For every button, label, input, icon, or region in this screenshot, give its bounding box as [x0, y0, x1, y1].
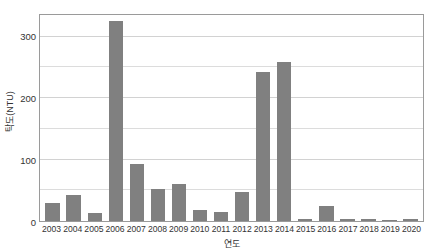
y-tick-label: 300	[20, 30, 36, 41]
bar-slot	[295, 15, 316, 221]
bar[interactable]	[319, 206, 333, 221]
bar-slot	[358, 15, 379, 221]
x-tick-label: 2008	[147, 224, 168, 237]
x-axis-tick-labels: 2003200420052006200720082009201020112012…	[39, 224, 424, 237]
bar[interactable]	[256, 72, 270, 221]
x-tick-label: 2012	[232, 224, 253, 237]
bar[interactable]	[277, 62, 291, 221]
x-tick-label: 2016	[316, 224, 337, 237]
bar-slot	[253, 15, 274, 221]
x-tick-label: 2019	[380, 224, 401, 237]
bar[interactable]	[130, 164, 144, 221]
x-tick-label: 2011	[210, 224, 231, 237]
y-tick-label: 0	[31, 217, 36, 228]
bar[interactable]	[340, 219, 354, 221]
bar-slot	[400, 15, 421, 221]
y-tick-label: 100	[20, 154, 36, 165]
x-tick-label: 2006	[105, 224, 126, 237]
x-tick-label: 2015	[295, 224, 316, 237]
x-tick-label: 2004	[62, 224, 83, 237]
bar-slot	[105, 15, 126, 221]
x-tick-label: 2013	[253, 224, 274, 237]
bar[interactable]	[193, 210, 207, 221]
bar-slot	[189, 15, 210, 221]
bar[interactable]	[45, 203, 59, 221]
bar-slot	[274, 15, 295, 221]
x-tick-label: 2014	[274, 224, 295, 237]
x-tick-label: 2017	[337, 224, 358, 237]
bar[interactable]	[403, 219, 417, 221]
bar[interactable]	[66, 195, 80, 221]
bar-slot	[337, 15, 358, 221]
bar-slot	[168, 15, 189, 221]
y-axis-tick-labels: 0100200300	[16, 14, 38, 222]
x-tick-label: 2020	[401, 224, 422, 237]
bar-chart-figure: 탁도(NTU) 0100200300 200320042005200620072…	[0, 0, 429, 250]
bar-slot	[316, 15, 337, 221]
bar-slot	[211, 15, 232, 221]
x-axis-title: 연도	[39, 237, 424, 250]
bar[interactable]	[109, 21, 123, 221]
x-tick-label: 2003	[41, 224, 62, 237]
bar[interactable]	[172, 184, 186, 221]
bar-slot	[379, 15, 400, 221]
x-tick-label: 2005	[83, 224, 104, 237]
x-tick-label: 2010	[189, 224, 210, 237]
bar[interactable]	[214, 212, 228, 221]
bar-slot	[84, 15, 105, 221]
bar[interactable]	[151, 189, 165, 221]
plot-area	[39, 14, 424, 222]
bars-container	[40, 15, 423, 221]
bar-slot	[232, 15, 253, 221]
y-tick-label: 200	[20, 92, 36, 103]
bar-slot	[63, 15, 84, 221]
y-axis-title-text: 탁도(NTU)	[3, 91, 16, 132]
bar[interactable]	[298, 219, 312, 221]
bar-slot	[126, 15, 147, 221]
bar-slot	[147, 15, 168, 221]
x-tick-label: 2009	[168, 224, 189, 237]
bar[interactable]	[382, 220, 396, 221]
bar[interactable]	[88, 213, 102, 221]
x-tick-label: 2018	[359, 224, 380, 237]
bar-slot	[42, 15, 63, 221]
bar[interactable]	[361, 219, 375, 221]
x-tick-label: 2007	[126, 224, 147, 237]
bar[interactable]	[235, 192, 249, 221]
